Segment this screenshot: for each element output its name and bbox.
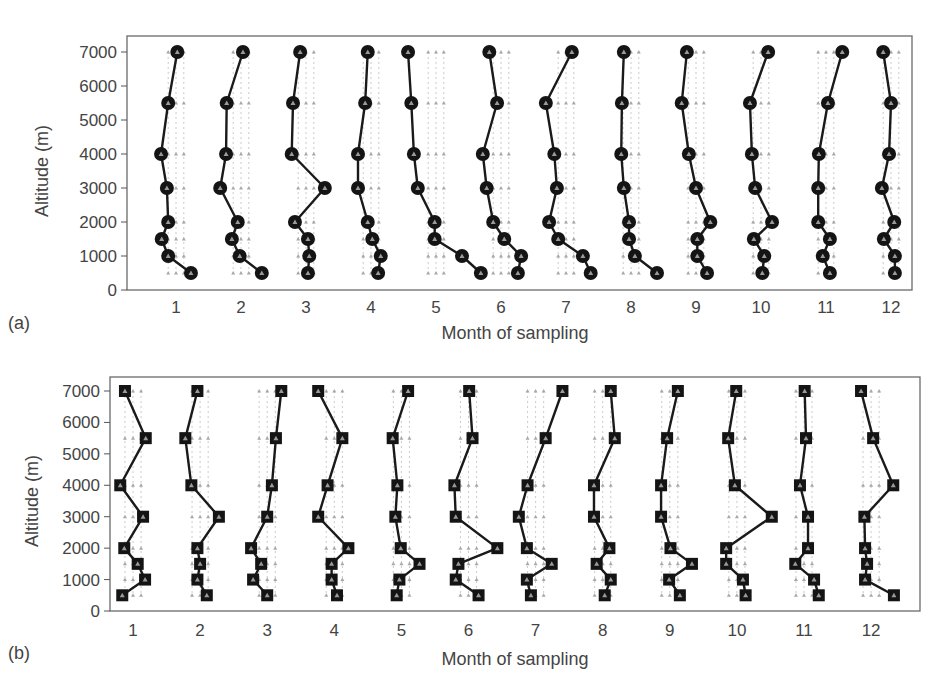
triangle-marker-icon	[434, 254, 438, 258]
triangle-marker-icon	[312, 186, 316, 190]
triangle-marker-icon	[556, 271, 560, 275]
triangle-marker-icon	[676, 515, 680, 519]
triangle-marker-icon	[816, 50, 820, 54]
triangle-marker-icon	[239, 186, 243, 190]
triangle-marker-icon	[507, 254, 511, 258]
triangle-marker-icon	[767, 101, 771, 105]
triangle-marker-icon	[759, 220, 763, 224]
month-profile-9	[675, 45, 718, 280]
triangle-marker-icon	[442, 186, 446, 190]
triangle-marker-icon	[861, 483, 865, 487]
triangle-marker-icon	[751, 254, 755, 258]
triangle-marker-icon	[877, 593, 881, 597]
triangle-marker-icon	[434, 271, 438, 275]
x-tick-label: 11	[795, 621, 813, 640]
triangle-marker-icon	[426, 101, 430, 105]
triangle-marker-icon	[391, 562, 395, 566]
triangle-marker-icon	[475, 578, 479, 582]
triangle-marker-icon	[273, 515, 277, 519]
triangle-marker-icon	[407, 483, 411, 487]
triangle-marker-icon	[206, 578, 210, 582]
triangle-marker-icon	[324, 546, 328, 550]
triangle-marker-icon	[491, 237, 495, 241]
triangle-marker-icon	[668, 389, 672, 393]
triangle-marker-icon	[824, 50, 828, 54]
triangle-marker-icon	[816, 101, 820, 105]
triangle-marker-icon	[526, 389, 530, 393]
triangle-marker-icon	[247, 271, 251, 275]
x-tick-label: 10	[727, 621, 746, 640]
triangle-marker-icon	[499, 50, 503, 54]
triangle-marker-icon	[694, 101, 698, 105]
triangle-marker-icon	[601, 578, 605, 582]
y-axis-label: Altitude (m)	[32, 125, 52, 217]
triangle-marker-icon	[426, 152, 430, 156]
triangle-marker-icon	[312, 152, 316, 156]
triangle-marker-icon	[247, 186, 251, 190]
triangle-marker-icon	[572, 152, 576, 156]
triangle-marker-icon	[660, 562, 664, 566]
triangle-marker-icon	[296, 271, 300, 275]
triangle-marker-icon	[139, 483, 143, 487]
triangle-marker-icon	[676, 578, 680, 582]
triangle-marker-icon	[257, 483, 261, 487]
triangle-marker-icon	[877, 546, 881, 550]
triangle-marker-icon	[802, 578, 806, 582]
triangle-marker-icon	[499, 254, 503, 258]
triangle-marker-icon	[593, 436, 597, 440]
x-tick-label: 9	[665, 621, 674, 640]
triangle-marker-icon	[676, 483, 680, 487]
triangle-marker-icon	[767, 186, 771, 190]
y-tick-label: 2000	[62, 539, 100, 558]
triangle-marker-icon	[767, 152, 771, 156]
month-profile-6	[448, 385, 503, 601]
x-tick-label: 8	[598, 621, 607, 640]
month-profile-3	[245, 385, 287, 601]
triangle-marker-icon	[361, 254, 365, 258]
triangle-marker-icon	[621, 271, 625, 275]
x-tick-label: 11	[817, 298, 835, 317]
triangle-marker-icon	[190, 515, 194, 519]
triangle-marker-icon	[609, 483, 613, 487]
triangle-marker-icon	[743, 389, 747, 393]
triangle-marker-icon	[694, 220, 698, 224]
triangle-marker-icon	[475, 515, 479, 519]
triangle-marker-icon	[629, 101, 633, 105]
triangle-marker-icon	[686, 220, 690, 224]
triangle-marker-icon	[556, 101, 560, 105]
panel-label: (b)	[8, 643, 30, 663]
month-profile-10	[720, 385, 778, 601]
triangle-marker-icon	[593, 578, 597, 582]
triangle-marker-icon	[467, 515, 471, 519]
triangle-marker-icon	[534, 578, 538, 582]
triangle-marker-icon	[889, 186, 893, 190]
triangle-marker-icon	[743, 562, 747, 566]
triangle-marker-icon	[273, 593, 277, 597]
triangle-marker-icon	[198, 483, 202, 487]
x-tick-label: 10	[752, 298, 771, 317]
triangle-marker-icon	[637, 186, 641, 190]
triangle-marker-icon	[324, 389, 328, 393]
triangle-marker-icon	[832, 152, 836, 156]
chart-panel-b: 01000200030004000500060007000Altitude (m…	[0, 345, 939, 686]
triangle-marker-icon	[131, 483, 135, 487]
triangle-marker-icon	[198, 436, 202, 440]
triangle-marker-icon	[686, 254, 690, 258]
x-tick-label: 12	[882, 298, 901, 317]
triangle-marker-icon	[499, 271, 503, 275]
x-tick-label: 12	[862, 621, 881, 640]
triangle-marker-icon	[668, 483, 672, 487]
x-tick-label: 5	[431, 298, 440, 317]
triangle-marker-icon	[182, 186, 186, 190]
triangle-marker-icon	[296, 237, 300, 241]
triangle-marker-icon	[206, 436, 210, 440]
triangle-marker-icon	[794, 593, 798, 597]
triangle-marker-icon	[434, 101, 438, 105]
triangle-marker-icon	[426, 271, 430, 275]
triangle-marker-icon	[265, 546, 269, 550]
triangle-marker-icon	[751, 271, 755, 275]
triangle-marker-icon	[869, 483, 873, 487]
triangle-marker-icon	[881, 271, 885, 275]
triangle-marker-icon	[877, 515, 881, 519]
triangle-marker-icon	[340, 389, 344, 393]
